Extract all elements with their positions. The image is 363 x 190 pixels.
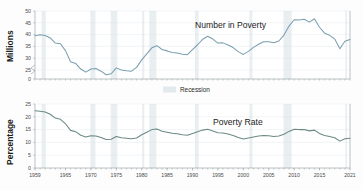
y-tick-label: 40 <box>25 31 31 37</box>
recession-legend-label: Recession <box>180 86 210 93</box>
y-tick-label: 10 <box>25 139 31 145</box>
recession-band <box>345 104 347 168</box>
chart-number-in-poverty: 0253035404550 Millions Number in Poverty <box>5 8 350 82</box>
y-tick-label: 5 <box>28 152 31 158</box>
x-tick-label: 1980 <box>136 172 148 178</box>
recession-band <box>142 104 144 168</box>
y-tick-label: 50 <box>25 8 31 14</box>
recession-band <box>149 11 156 79</box>
y-tick-label: 0 <box>28 76 31 82</box>
x-tick-label: 1965 <box>60 172 72 178</box>
recession-band <box>42 11 46 79</box>
y-tick-label: 30 <box>25 55 31 61</box>
recession-legend-swatch <box>163 87 176 93</box>
bottom-x-tick-labels: 1959196519701975198019851990199520002005… <box>29 172 356 178</box>
recession-band <box>283 104 291 168</box>
y-tick-label: 45 <box>25 20 31 26</box>
top-series-annotation: Number in Poverty <box>195 20 267 30</box>
recession-band <box>142 11 144 79</box>
y-tick-label: 0 <box>28 165 31 171</box>
recession-band <box>111 11 118 79</box>
x-tick-label: 1970 <box>85 172 97 178</box>
poverty-chart-svg: 0253035404550 Millions Number in Poverty… <box>0 0 363 190</box>
bottom-y-axis-title: Percentage <box>5 119 15 165</box>
top-plot-background <box>35 11 350 79</box>
bottom-y-tick-labels: 0510152025 <box>25 101 31 171</box>
recession-band <box>345 11 347 79</box>
y-tick-label: 25 <box>25 67 31 73</box>
x-tick-label: 2021 <box>344 172 356 178</box>
x-tick-label: 1985 <box>161 172 173 178</box>
x-tick-label: 2010 <box>288 172 300 178</box>
recession-band <box>149 104 156 168</box>
chart-poverty-rate: 0510152025 19591965197019751980198519901… <box>5 101 356 178</box>
x-tick-label: 1975 <box>111 172 123 178</box>
bottom-x-tickmarks <box>35 168 350 171</box>
x-tick-label: 1990 <box>187 172 199 178</box>
x-tick-label: 1995 <box>212 172 224 178</box>
bottom-series-annotation: Poverty Rate <box>213 117 263 127</box>
y-tick-label: 20 <box>25 114 31 120</box>
recession-band <box>283 11 291 79</box>
x-tick-label: 2005 <box>263 172 275 178</box>
top-y-tick-labels: 0253035404550 <box>25 8 31 82</box>
y-tick-label: 15 <box>25 126 31 132</box>
poverty-figure: 0253035404550 Millions Number in Poverty… <box>0 0 363 190</box>
recession-band <box>42 104 46 168</box>
top-y-axis-title: Millions <box>5 30 15 62</box>
y-tick-label: 25 <box>25 101 31 107</box>
x-tick-label: 2015 <box>314 172 326 178</box>
top-axis-break-icon <box>31 65 35 74</box>
recession-band <box>195 104 199 168</box>
x-tick-label: 1959 <box>29 172 41 178</box>
x-tick-label: 2000 <box>238 172 250 178</box>
recession-legend: Recession <box>163 86 210 93</box>
y-tick-label: 35 <box>25 43 31 49</box>
recession-band <box>249 104 252 168</box>
